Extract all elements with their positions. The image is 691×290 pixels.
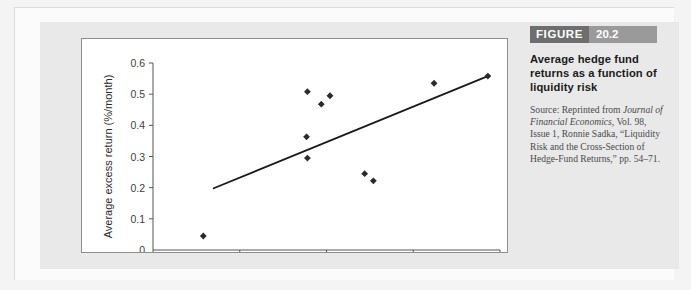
figure-panel: 00.10.20.30.40.50.6−0.500.511.5Liquidity… [40, 22, 679, 269]
data-point [370, 177, 377, 184]
data-point [304, 155, 311, 162]
figure-label-word: FIGURE [530, 26, 589, 43]
data-point [318, 101, 325, 108]
scatter-chart: 00.10.20.30.40.50.6−0.500.511.5Liquidity… [82, 39, 507, 252]
y-tick-label: 0 [139, 244, 145, 252]
source-prefix: Source: Reprinted from [530, 104, 621, 115]
figure-caption-column: FIGURE 20.2 Average hedge fund returns a… [530, 26, 675, 166]
data-point [327, 92, 334, 99]
data-point [303, 133, 310, 140]
figure-header-band: FIGURE 20.2 [530, 26, 657, 43]
figure-source: Source: Reprinted from Journal of Financ… [530, 104, 666, 166]
figure-number: 20.2 [589, 26, 657, 43]
y-tick-label: 0.4 [130, 119, 145, 131]
trend-line [214, 76, 488, 188]
data-point [431, 80, 438, 87]
data-point [361, 170, 368, 177]
data-point [484, 73, 491, 80]
figure-title: Average hedge fund returns as a function… [530, 52, 662, 95]
y-tick-label: 0.2 [130, 182, 145, 194]
data-point [304, 88, 311, 95]
y-tick-label: 0.1 [130, 213, 145, 225]
y-tick-label: 0.3 [130, 151, 145, 163]
figure-page: 00.10.20.30.40.50.6−0.500.511.5Liquidity… [0, 0, 691, 290]
y-axis-title: Average excess return (%/month) [102, 75, 114, 239]
y-tick-label: 0.6 [130, 57, 145, 69]
chart-plot-box: 00.10.20.30.40.50.6−0.500.511.5Liquidity… [81, 38, 508, 253]
y-tick-label: 0.5 [130, 88, 145, 100]
outer-card: 00.10.20.30.40.50.6−0.500.511.5Liquidity… [14, 7, 674, 280]
data-point [200, 233, 207, 240]
